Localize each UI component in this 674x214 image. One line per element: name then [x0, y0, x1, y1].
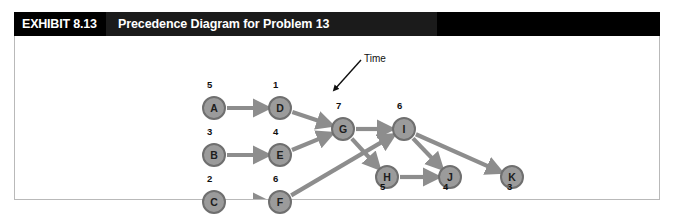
exhibit-title: Precedence Diagram for Problem 13	[106, 12, 437, 36]
exhibit-header: EXHIBIT 8.13 Precedence Diagram for Prob…	[14, 12, 660, 36]
header-filler	[437, 12, 660, 36]
node-c[interactable]: C	[202, 190, 226, 213]
time-annotation-label: Time	[364, 53, 386, 64]
exhibit-number-label: EXHIBIT 8.13	[14, 12, 106, 36]
node-g[interactable]: G	[331, 117, 355, 141]
node-duration-c: 2	[207, 173, 212, 184]
node-duration-g: 7	[336, 100, 341, 111]
precedence-diagram: Time 5A3B2C1D4E6F7G5H6I4J3K	[15, 36, 659, 199]
node-b[interactable]: B	[202, 143, 226, 167]
node-duration-f: 6	[273, 173, 278, 184]
node-i[interactable]: I	[392, 117, 416, 141]
node-duration-b: 3	[207, 126, 212, 137]
node-duration-d: 1	[273, 79, 278, 90]
time-pointer-arrow	[335, 60, 361, 89]
node-h[interactable]: H	[375, 165, 399, 189]
node-a[interactable]: A	[202, 96, 226, 120]
node-j[interactable]: J	[438, 165, 462, 189]
node-duration-k: 3	[507, 181, 512, 192]
diagram-canvas: Time 5A3B2C1D4E6F7G5H6I4J3K	[14, 36, 660, 200]
node-duration-h: 5	[380, 181, 385, 192]
exhibit-container: EXHIBIT 8.13 Precedence Diagram for Prob…	[14, 12, 660, 200]
node-d[interactable]: D	[268, 96, 292, 120]
node-f[interactable]: F	[268, 190, 292, 213]
node-duration-j: 4	[443, 181, 448, 192]
node-duration-e: 4	[273, 126, 278, 137]
node-duration-i: 6	[397, 100, 402, 111]
node-duration-a: 5	[207, 79, 212, 90]
node-e[interactable]: E	[268, 143, 292, 167]
